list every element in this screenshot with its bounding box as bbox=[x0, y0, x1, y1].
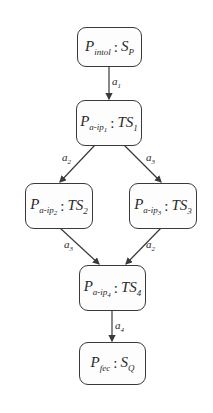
process-label: Pa-ip2 bbox=[30, 196, 57, 217]
state-label: TS4 bbox=[121, 279, 141, 298]
edge-label-a2-left: a2 bbox=[62, 151, 71, 166]
separator: : bbox=[113, 355, 117, 372]
node-p-fec: Pfec : SQ bbox=[79, 342, 146, 385]
process-label: Pa-ip3 bbox=[134, 196, 161, 217]
edge-label-a3-lower: a3 bbox=[64, 238, 73, 253]
state-label: TS3 bbox=[172, 197, 192, 216]
edge-label-a2-lower: a2 bbox=[146, 238, 155, 253]
node-p-a-ip2: Pa-ip2 : TS2 bbox=[25, 183, 93, 229]
separator: : bbox=[60, 198, 64, 215]
node-p-a-ip1: Pa-ip1 : TS1 bbox=[76, 100, 142, 146]
separator: : bbox=[164, 198, 168, 215]
state-label: TS1 bbox=[118, 114, 138, 133]
state-label: TS2 bbox=[68, 197, 88, 216]
edge-label-a3-right: a3 bbox=[146, 151, 155, 166]
separator: : bbox=[110, 115, 114, 132]
process-label: Pfec bbox=[91, 354, 111, 373]
process-label: Pa-ip4 bbox=[84, 278, 111, 299]
separator: : bbox=[114, 39, 118, 56]
node-p-a-ip3: Pa-ip3 : TS3 bbox=[129, 183, 197, 229]
edge-label-a4: a4 bbox=[115, 319, 124, 334]
process-label: Pa-ip1 bbox=[80, 113, 107, 134]
node-p-a-ip4: Pa-ip4 : TS4 bbox=[79, 265, 146, 311]
node-p-intol: Pintol : SP bbox=[77, 27, 142, 67]
separator: : bbox=[114, 280, 118, 297]
edge-label-a1: a1 bbox=[112, 75, 121, 90]
process-label: Pintol bbox=[85, 38, 111, 57]
state-label: SQ bbox=[120, 354, 134, 373]
state-label: SP bbox=[121, 38, 134, 57]
edge-n4-n5 bbox=[126, 228, 161, 264]
edge-n2-n4 bbox=[124, 145, 161, 182]
